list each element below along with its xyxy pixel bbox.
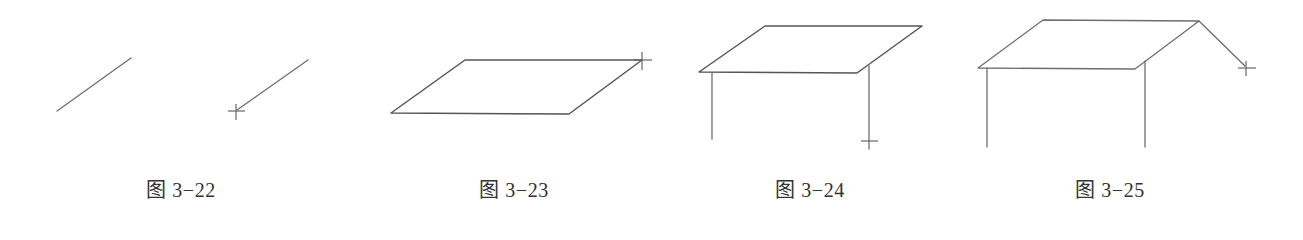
figure-caption-3-23: 图 3−23: [434, 174, 594, 203]
line-segment-1: [57, 58, 131, 111]
parallelogram-roof: [978, 20, 1199, 69]
figure-3-22-drawing: [57, 58, 308, 120]
parallelogram-roof: [699, 26, 922, 73]
figure-caption-3-22: 图 3−22: [101, 174, 261, 203]
figure-3-25-drawing: [978, 20, 1256, 147]
figure-caption-3-24: 图 3−24: [730, 174, 890, 203]
line-segment-2: [237, 60, 308, 110]
figure-3-24-drawing: [699, 26, 922, 149]
figure-caption-3-25: 图 3−25: [1030, 174, 1190, 203]
parallelogram-roof: [391, 60, 642, 114]
crosshair-icon: [1238, 61, 1256, 76]
crosshair-icon: [634, 52, 652, 70]
gable-diagonal-line: [1199, 21, 1245, 66]
figure-3-23-drawing: [391, 52, 652, 114]
